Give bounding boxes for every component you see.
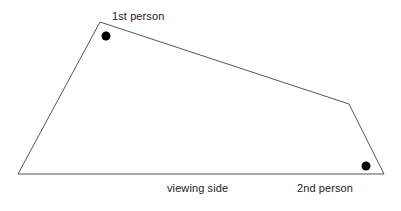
diagram-canvas: 1st person viewing side 2nd person [0,0,401,211]
first-person-marker-dot [102,32,111,41]
polygon-diagram-svg [0,0,401,211]
first-person-label: 1st person [112,10,164,22]
second-person-marker-dot [362,162,371,171]
diagram-background [0,0,401,211]
viewing-side-label: viewing side [167,182,228,194]
second-person-label: 2nd person [297,182,353,194]
